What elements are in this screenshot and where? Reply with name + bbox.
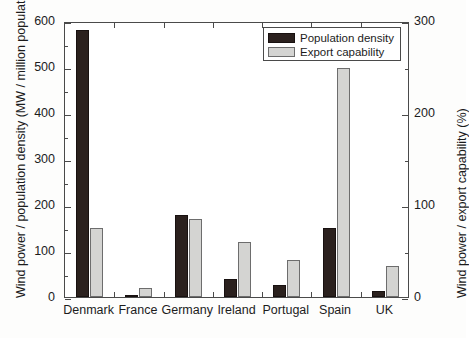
bar-population-density-uk	[372, 291, 385, 297]
axis-tick	[311, 292, 312, 297]
y-axis-left-tick-label: 500	[34, 60, 55, 74]
bar-export-capability-uk	[386, 266, 399, 297]
legend-swatch-population-density	[268, 33, 295, 43]
axis-tick	[164, 292, 165, 297]
axis-tick	[65, 184, 68, 185]
axis-tick	[65, 46, 68, 47]
axis-tick	[65, 92, 68, 93]
legend-swatch-export-capability	[268, 47, 295, 57]
axis-tick	[402, 115, 408, 116]
y-axis-right-tick-label: 300	[414, 14, 435, 28]
axis-tick	[402, 207, 408, 208]
bar-population-density-denmark	[76, 30, 89, 297]
axis-tick	[402, 299, 408, 300]
axis-tick	[114, 292, 115, 297]
bar-export-capability-france	[139, 288, 152, 297]
y-axis-left-tick-label: 400	[34, 106, 55, 120]
axis-tick	[405, 161, 408, 162]
plot-area	[64, 22, 409, 298]
y-axis-left-tick-label: 100	[34, 244, 55, 258]
axis-tick	[65, 138, 68, 139]
axis-tick	[65, 299, 71, 300]
bar-export-capability-germany	[189, 219, 202, 297]
chart-legend: Population density Export capability	[263, 27, 401, 61]
x-axis-tick-label-uk: UK	[344, 303, 424, 317]
plot-inner	[65, 23, 408, 297]
axis-tick	[65, 207, 71, 208]
axis-tick	[114, 23, 115, 28]
axis-tick	[65, 115, 71, 116]
y-axis-left-tick-label: 600	[34, 14, 55, 28]
legend-item-export-capability: Export capability	[268, 45, 396, 58]
bar-population-density-spain	[323, 228, 336, 297]
y-axis-left-tick-label: 0	[48, 290, 55, 304]
y-axis-left-tick-label: 300	[34, 152, 55, 166]
axis-tick	[65, 230, 68, 231]
y-axis-left-tick-label: 200	[34, 198, 55, 212]
legend-label-population-density: Population density	[300, 32, 394, 44]
axis-tick	[405, 69, 408, 70]
bar-export-capability-portugal	[287, 260, 300, 297]
axis-tick	[262, 292, 263, 297]
bar-population-density-france	[125, 295, 138, 297]
bar-export-capability-denmark	[90, 228, 103, 297]
y-axis-left-title: Wind power / population density (MW / mi…	[14, 0, 28, 298]
bar-population-density-ireland	[224, 279, 237, 297]
axis-tick	[65, 276, 68, 277]
y-axis-right-title: Wind power / export capability (%)	[455, 108, 469, 298]
axis-tick	[402, 23, 408, 24]
legend-label-export-capability: Export capability	[300, 46, 384, 58]
bar-export-capability-spain	[337, 68, 350, 297]
axis-tick	[405, 253, 408, 254]
axis-tick	[65, 69, 71, 70]
y-axis-right-tick-label: 0	[414, 290, 421, 304]
axis-tick	[213, 292, 214, 297]
axis-tick	[164, 23, 165, 28]
legend-item-population-density: Population density	[268, 31, 396, 44]
axis-tick	[361, 292, 362, 297]
bar-population-density-germany	[175, 215, 188, 297]
y-axis-right-tick-label: 200	[414, 106, 435, 120]
bar-population-density-portugal	[273, 285, 286, 297]
axis-tick	[65, 253, 71, 254]
axis-tick	[65, 23, 71, 24]
y-axis-right-tick-label: 100	[414, 198, 435, 212]
axis-tick	[213, 23, 214, 28]
axis-tick	[65, 161, 71, 162]
bar-export-capability-ireland	[238, 242, 251, 297]
